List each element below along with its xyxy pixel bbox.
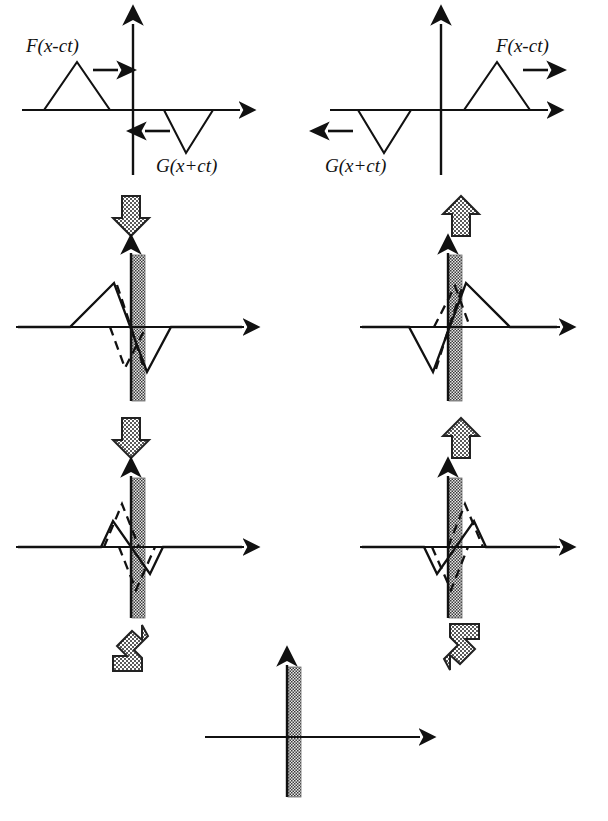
label-g-wave: G(x+ct) xyxy=(325,155,386,177)
shaded-band xyxy=(288,667,301,797)
figure-background xyxy=(0,0,608,821)
wave-superposition-figure: F(x-ct) G(x+ct) F(x-ct) G(x+ct) xyxy=(0,0,608,821)
label-f-wave: F(x-ct) xyxy=(495,35,549,57)
label-g-wave: G(x+ct) xyxy=(156,155,217,177)
label-f-wave: F(x-ct) xyxy=(25,35,79,57)
